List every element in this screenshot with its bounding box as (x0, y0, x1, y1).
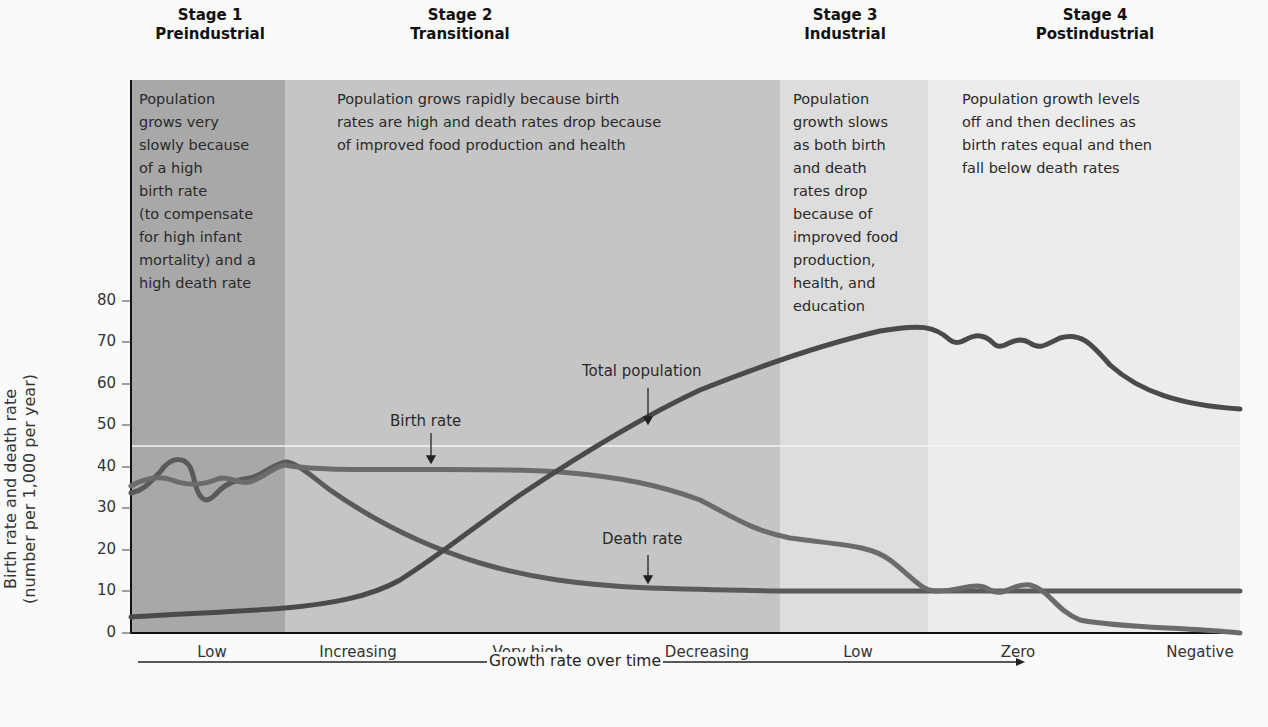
x-axis-title-row: Growth rate over time (0, 652, 1268, 682)
x-axis-title: Growth rate over time (487, 652, 663, 670)
birth-rate-label: Birth rate (390, 412, 461, 430)
death-rate-line (131, 460, 1240, 591)
death-rate-label: Death rate (602, 530, 683, 548)
total-population-label: Total population (582, 362, 702, 380)
y-tick-marks (122, 301, 131, 633)
